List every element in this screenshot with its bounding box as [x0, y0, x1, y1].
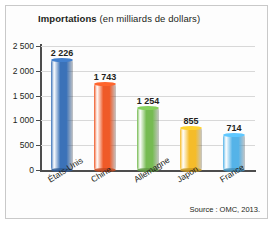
bar-cap: [180, 126, 202, 130]
y-axis-tick-label: 2 000: [0, 66, 34, 76]
source-note: Source : OMC, 2013.: [190, 205, 260, 214]
bar-value-label: 714: [208, 123, 260, 133]
bar-cap: [223, 133, 245, 137]
y-axis-tick-label: 0: [0, 165, 34, 175]
y-axis-tick-label: 500: [0, 140, 34, 150]
bar: [51, 60, 73, 170]
bar-cap: [137, 106, 159, 110]
bar-value-label: 2 226: [36, 48, 88, 58]
bar-cap: [51, 58, 73, 62]
bar-value-label: 1 743: [79, 72, 131, 82]
bar: [180, 128, 202, 170]
y-axis-tick-label: 2 500: [0, 41, 34, 51]
bar-value-label: 1 254: [122, 96, 174, 106]
y-axis-tick: [36, 170, 41, 171]
y-axis-tick-label: 1 000: [0, 115, 34, 125]
chart-title-subtitle: (en milliards de dollars): [99, 13, 200, 24]
chart-title-main: Importations: [38, 13, 97, 24]
y-axis-tick-label: 1 500: [0, 91, 34, 101]
chart-figure: Importations (en milliards de dollars) 0…: [0, 0, 274, 226]
bar: [94, 84, 116, 170]
chart-title: Importations (en milliards de dollars): [38, 13, 200, 24]
bar-cap: [94, 82, 116, 86]
